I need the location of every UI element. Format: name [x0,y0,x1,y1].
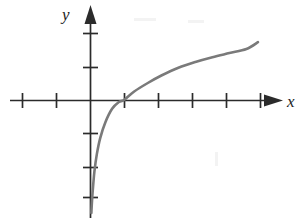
y-axis [83,5,98,218]
x-axis [10,93,283,108]
y-axis-arrowhead [85,5,97,24]
logarithmic-graph: y x [0,0,301,223]
x-axis-label: x [286,92,295,111]
logarithmic-curve [91,42,258,213]
figure-container: y x [0,0,301,223]
scan-artifacts [134,18,218,166]
x-axis-arrowhead [264,95,283,107]
y-axis-label: y [60,5,70,24]
